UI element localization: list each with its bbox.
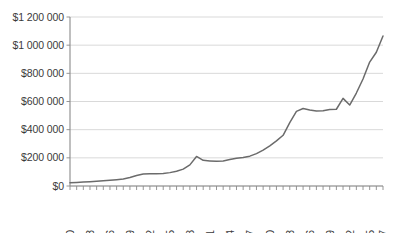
data-series-line: [70, 36, 383, 183]
x-tick-label: 2003: [284, 230, 296, 233]
y-tick-label: $600 000: [21, 95, 64, 107]
x-tick-label: 1976: [104, 230, 116, 233]
y-tick-label: $1 000 000: [12, 39, 64, 51]
x-tick-label: 2015: [364, 230, 376, 233]
x-tick-label: 2009: [324, 230, 336, 233]
y-tick-label: $400 000: [21, 123, 64, 135]
y-tick-label: $200 000: [21, 151, 64, 163]
x-tick-label: 1988: [184, 230, 196, 233]
x-tick-label: 2006: [304, 230, 316, 233]
x-tick-label: 1979: [124, 230, 136, 233]
x-tick-label: 1985: [164, 230, 176, 233]
chart-container: $0$200 000$400 000$600 000$800 000$1 000…: [0, 0, 397, 233]
x-tick-label: 2000: [264, 230, 276, 233]
x-tick-label: 1982: [144, 230, 156, 233]
y-tick-label: $1 200 000: [12, 11, 64, 23]
x-tick-label: 1991: [204, 230, 216, 233]
y-tick-label: $800 000: [21, 67, 64, 79]
x-tick-label: 1973: [84, 230, 96, 233]
x-tick-label: 1997: [244, 230, 256, 233]
x-tick-label: 2012: [344, 230, 356, 233]
x-tick-label: 1970: [64, 230, 76, 233]
x-tick-label: 2017: [377, 230, 389, 233]
x-tick-label: 1994: [224, 230, 236, 233]
line-chart: $0$200 000$400 000$600 000$800 000$1 000…: [0, 0, 397, 233]
y-tick-label: $0: [53, 180, 65, 192]
